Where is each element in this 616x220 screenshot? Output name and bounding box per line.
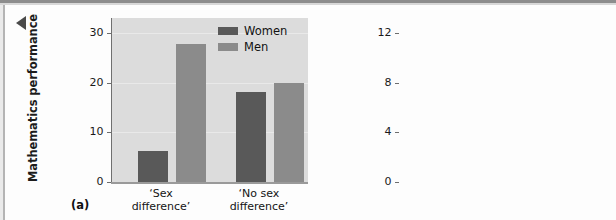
y-axis-tick-label-10: 10 [75, 125, 104, 138]
figure-panel-b: Adjusted verbal performance African–Amer… [308, 0, 616, 220]
panel-letter-a: (a) [71, 198, 89, 212]
y-axis-tick-label-4: 4 [363, 125, 392, 138]
bar-a-0-women [138, 151, 168, 182]
category-label-a-1: ‘Sex difference’ [112, 187, 210, 213]
category-label-a-1-line1: ‘Sex [112, 187, 210, 200]
category-label-a-2: ‘No sex difference’ [210, 187, 308, 213]
bar-a-1-men [274, 83, 304, 182]
y-axis-line-a [111, 18, 113, 182]
y-axis-tick-label-12: 12 [363, 26, 392, 39]
y-axis-tick [395, 132, 399, 133]
y-axis-tick [395, 33, 399, 34]
y-axis-tick-label-30: 30 [75, 26, 104, 39]
x-axis-line-a [111, 182, 308, 184]
scanned-page: Mathematics performance Women Men (a) ‘S… [0, 0, 616, 220]
legend-swatch-men [218, 43, 238, 51]
legend-a: Women Men [218, 24, 287, 54]
y-axis-tick [107, 83, 111, 84]
category-label-a-2-line2: difference’ [210, 200, 308, 213]
legend-label-women: Women [244, 24, 287, 38]
bar-a-1-women [236, 92, 266, 182]
y-axis-tick [107, 33, 111, 34]
y-axis-tick [395, 83, 399, 84]
y-axis-tick-label-0: 0 [75, 175, 104, 188]
legend-label-men: Men [244, 40, 268, 54]
y-axis-tick [107, 132, 111, 133]
y-axis-tick [107, 182, 111, 183]
y-axis-tick [395, 182, 399, 183]
y-axis-tick-label-0: 0 [363, 175, 392, 188]
y-axis-tick-label-20: 20 [75, 76, 104, 89]
bar-a-0-men [176, 44, 206, 182]
category-label-a-1-line2: difference’ [112, 200, 210, 213]
category-label-a-2-line1: ‘No sex [210, 187, 308, 200]
y-axis-label-a: Mathematics performance [26, 14, 40, 182]
legend-item-men: Men [218, 40, 287, 54]
figure-panel-a: Mathematics performance Women Men (a) ‘S… [0, 0, 308, 220]
legend-swatch-women [218, 27, 238, 35]
y-axis-tick-label-8: 8 [363, 76, 392, 89]
legend-item-women: Women [218, 24, 287, 38]
